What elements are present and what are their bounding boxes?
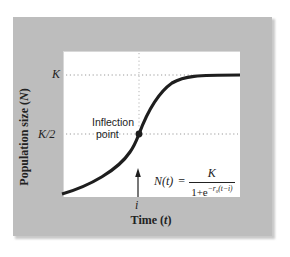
formula-denominator: 1+e−r₀(t−i) xyxy=(191,183,232,198)
x-axis-label: Time (t) xyxy=(131,213,172,228)
inflection-label-line2: point xyxy=(92,128,134,140)
inflection-point-marker xyxy=(136,131,143,138)
y-axis-variable: N xyxy=(17,92,31,101)
x-axis-label-text: Time ( xyxy=(131,213,164,227)
y-axis-label-text: Population size ( xyxy=(17,101,31,186)
inflection-label-line1: Inflection xyxy=(92,116,134,128)
formula-numerator: K xyxy=(189,166,234,183)
formula-fraction: K 1+e−r₀(t−i) xyxy=(191,166,232,198)
arrow-head-icon xyxy=(135,168,141,177)
y-tick-k-half: K/2 xyxy=(38,127,55,142)
y-axis-label: Population size (N) xyxy=(17,88,32,185)
logistic-formula: N(t) = K 1+e−r₀(t−i) xyxy=(154,166,233,198)
x-axis-label-close: ) xyxy=(167,213,171,227)
formula-denominator-base: 1+e xyxy=(191,186,208,198)
y-axis-label-close: ) xyxy=(17,88,31,92)
formula-lhs: N(t) xyxy=(154,174,173,189)
inflection-point-label: Inflection point xyxy=(92,116,134,140)
formula-exponent: −r₀(t−i) xyxy=(208,184,233,193)
x-tick-i: i xyxy=(135,198,138,213)
y-tick-k: K xyxy=(52,67,60,82)
formula-equals: = xyxy=(178,174,185,189)
